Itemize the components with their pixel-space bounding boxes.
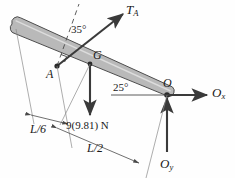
label-point-g: G [93,49,102,61]
label-point-o: O [163,77,172,89]
label-dimension-L6: L/6 [30,123,46,135]
label-reaction-ox: Ox [212,86,225,100]
label-angle-25: 25° [113,82,128,93]
label-angle-35: 35° [71,24,86,35]
weight-force-arrow [88,62,93,115]
label-tension-TA: TA [126,3,138,17]
label-reaction-oy: Oy [160,157,173,171]
label-point-a: A [46,68,53,80]
label-dimension-L2: L/2 [87,142,103,154]
label-weight: 9(9.81) N [66,120,109,131]
free-body-diagram: TA 35° A G 25° O Ox Oy 9(9.81) N L/6 L/2 [0,0,235,178]
